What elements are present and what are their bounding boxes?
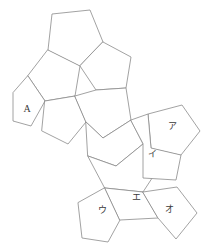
dodecahedron-net-figure: Aアイウエオ [0, 0, 208, 249]
face-label-a: A [23, 103, 31, 114]
face-label-e: エ [132, 192, 141, 202]
face-label-a-ri: ア [168, 121, 177, 131]
face-label-u: ウ [98, 205, 107, 215]
face-label-o: オ [165, 204, 174, 214]
face-label-i: イ [148, 149, 157, 159]
